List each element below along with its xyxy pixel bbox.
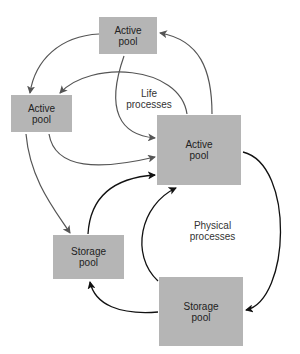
physical-processes-label: Physical processes xyxy=(185,220,240,242)
label-line: processes xyxy=(185,231,240,242)
pool-label: Active xyxy=(28,103,55,114)
pool-label: Active xyxy=(185,139,212,150)
life-processes-label: Life processes xyxy=(124,88,174,110)
label-line: processes xyxy=(124,99,174,110)
label-line: Life xyxy=(124,88,174,99)
pool-label: pool xyxy=(114,36,141,47)
pool-label: pool xyxy=(183,312,218,323)
storage-pool-left: Storagepool xyxy=(53,235,124,279)
pool-label: pool xyxy=(71,257,106,268)
pool-label: pool xyxy=(185,150,212,161)
label-line: Physical xyxy=(185,220,240,231)
active-pool-center: Activepool xyxy=(157,115,241,185)
pool-label: Active xyxy=(114,25,141,36)
storage-pool-bottom: Storagepool xyxy=(159,277,243,346)
pool-label: Storage xyxy=(71,246,106,257)
active-pool-top: Activepool xyxy=(99,17,157,54)
pool-label: pool xyxy=(28,114,55,125)
pool-label: Storage xyxy=(183,301,218,312)
active-pool-left: Activepool xyxy=(11,95,72,132)
